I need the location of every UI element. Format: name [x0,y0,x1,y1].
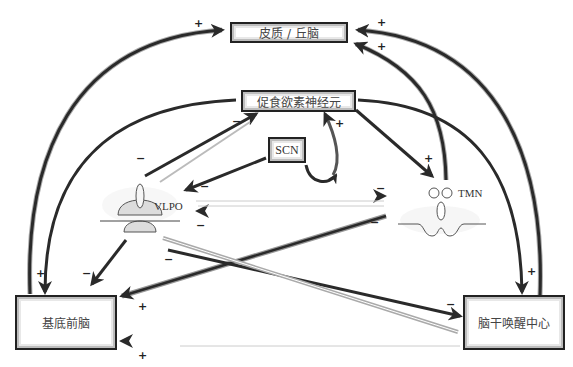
sign-minus-tmn-vlpo: − [196,220,205,231]
brainstem-arousal-label: 脑干唤醒中心 [478,314,550,331]
arrow-orexin-to-tmn [356,110,432,176]
sign-minus-vlpo-bf: − [82,268,91,279]
arrow-vlpo-to-brainstem [168,250,460,316]
arrow-vlpo-to-tmn [196,196,384,201]
orexin-neurons-box: 促食欲素神经元 [241,90,356,112]
sign-minus-vlpo-orexin: − [232,116,241,127]
cortex-thalamus-box: 皮质 / 丘脑 [230,22,348,43]
arrow-brainstem-to-vlpo [163,238,458,332]
scn-label: SCN [275,143,298,158]
cortex-thalamus-label: 皮质 / 丘脑 [259,24,319,41]
sign-minus-vlpo-bs: − [446,299,455,310]
sign-plus-orexin-tmn: + [424,153,433,164]
tmn-label: TMN [458,187,482,199]
basal-forebrain-label: 基底前脑 [42,314,90,331]
basal-forebrain-box: 基底前脑 [15,295,117,350]
arrow-vlpo-to-basal-forebrain [92,240,126,284]
brainstem-arousal-box: 脑干唤醒中心 [463,295,565,350]
arrow-brainstem-to-basal-forebrain [122,341,460,346]
arrow-tmn-to-basal-forebrain [122,216,386,296]
sign-plus-bs-bf: + [138,350,147,361]
sign-minus-scn-vlpo: − [200,181,209,192]
sign-plus-orexin-bf: + [36,268,45,279]
sign-plus-bf-cortex: + [194,18,203,29]
arrow-scn-to-orexin [306,114,337,182]
sign-minus-tmn-vlpo-2: − [370,217,379,228]
orexin-neurons-label: 促食欲素神经元 [257,93,341,110]
sign-plus-scn-orexin: + [335,118,344,129]
arrow-scn-to-vlpo [186,158,266,190]
sign-plus-tmn-bf: + [138,301,147,312]
arrow-tmn-to-vlpo [198,206,384,211]
sign-plus-orexin-bs: + [527,266,536,277]
sign-minus-vlpo-tmn: − [376,183,385,194]
sleep-wake-circuit-diagram: 皮质 / 丘脑 促食欲素神经元 SCN 基底前脑 脑干唤醒中心 VLPO TMN… [0,0,573,367]
scn-box: SCN [268,137,306,163]
sign-plus-tmn-cortex: + [377,41,386,52]
arrow-brainstem-to-cortex [358,30,540,296]
sign-minus-bs-vlpo: − [164,254,173,265]
sign-plus-bs-cortex: + [377,17,386,28]
sign-minus-orexin-vlpo: − [136,153,145,164]
vlpo-label: VLPO [154,200,183,212]
